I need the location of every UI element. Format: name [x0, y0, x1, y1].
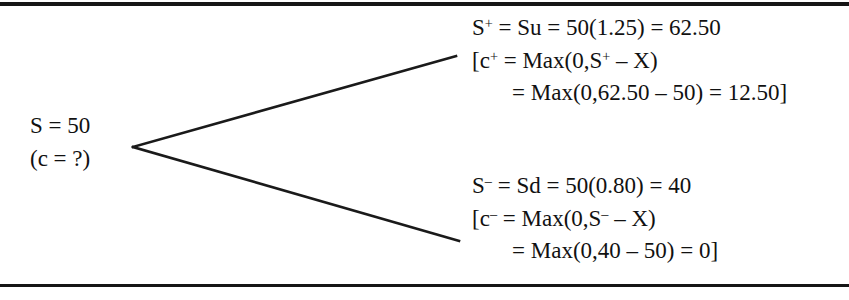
up-call-symbol: [c — [472, 48, 490, 73]
root-node-label: S = 50 (c = ?) — [30, 110, 90, 175]
up-state-outcome-block: S+ = Su = 50(1.25) = 62.50 [c+ = Max(0,S… — [472, 12, 787, 110]
up-superscript-plus: + — [485, 15, 493, 31]
up-branch-line — [133, 56, 456, 147]
down-call-symbol: [c — [472, 206, 490, 231]
down-call-payoff-line: [c– = Max(0,S– – X) — [472, 203, 718, 236]
binomial-tree-figure: S = 50 (c = ?) S+ = Su = 50(1.25) = 62.5… — [0, 0, 849, 300]
down-branch-line — [133, 147, 459, 241]
down-superscript-minus: – — [485, 173, 492, 189]
up-stock-price-line: S+ = Su = 50(1.25) = 62.50 — [472, 12, 787, 45]
up-stock-symbol: S — [472, 15, 485, 40]
down-call-result-line: = Max(0,40 – 50) = 0] — [472, 235, 718, 268]
down-stock-expression: = Sd = 50(0.80) = 40 — [492, 173, 691, 198]
root-call-value: (c = ?) — [30, 143, 90, 176]
down-state-outcome-block: S– = Sd = 50(0.80) = 40 [c– = Max(0,S– –… — [472, 170, 718, 268]
bottom-horizontal-rule — [0, 284, 849, 287]
up-call-payoff-line: [c+ = Max(0,S+ – X) — [472, 45, 787, 78]
up-call-result-line: = Max(0,62.50 – 50) = 12.50] — [472, 77, 787, 110]
down-call-expression-part1: = Max(0,S — [497, 206, 601, 231]
up-call-superscript-plus: + — [490, 47, 498, 63]
up-call-expression-part2: – X) — [610, 48, 657, 73]
up-call-expression-part1: = Max(0,S — [498, 48, 602, 73]
root-stock-price: S = 50 — [30, 110, 90, 143]
down-stock-symbol: S — [472, 173, 485, 198]
down-call-superscript-minus: – — [490, 205, 497, 221]
down-call-expression-part2: – X) — [608, 206, 655, 231]
down-stock-price-line: S– = Sd = 50(0.80) = 40 — [472, 170, 718, 203]
up-stock-expression: = Su = 50(1.25) = 62.50 — [493, 15, 721, 40]
